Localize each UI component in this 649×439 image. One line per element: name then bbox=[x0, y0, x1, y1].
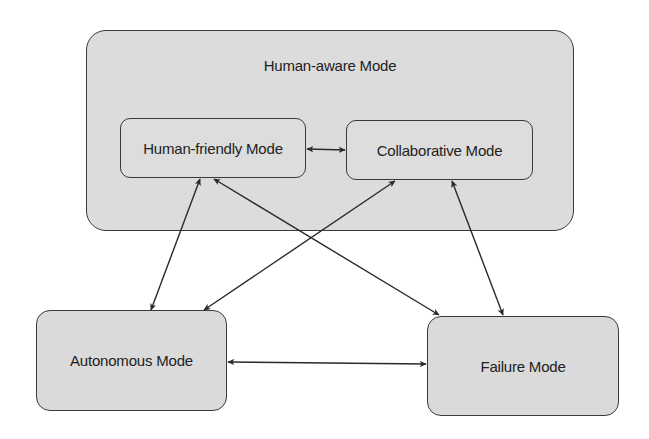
autonomous-mode-label: Autonomous Mode bbox=[70, 352, 193, 369]
mode-diagram: Human-aware Mode Human-friendly Mode Col… bbox=[0, 0, 649, 439]
human-friendly-mode-label: Human-friendly Mode bbox=[143, 140, 283, 157]
failure-mode-node: Failure Mode bbox=[427, 316, 619, 416]
collaborative-mode-node: Collaborative Mode bbox=[346, 120, 533, 180]
collaborative-mode-label: Collaborative Mode bbox=[377, 142, 503, 159]
autonomous-mode-node: Autonomous Mode bbox=[36, 310, 227, 411]
human-aware-mode-label: Human-aware Mode bbox=[264, 57, 397, 74]
failure-mode-label: Failure Mode bbox=[480, 358, 565, 375]
arrow-autonomous-failure bbox=[228, 362, 426, 364]
human-friendly-mode-node: Human-friendly Mode bbox=[120, 118, 306, 178]
